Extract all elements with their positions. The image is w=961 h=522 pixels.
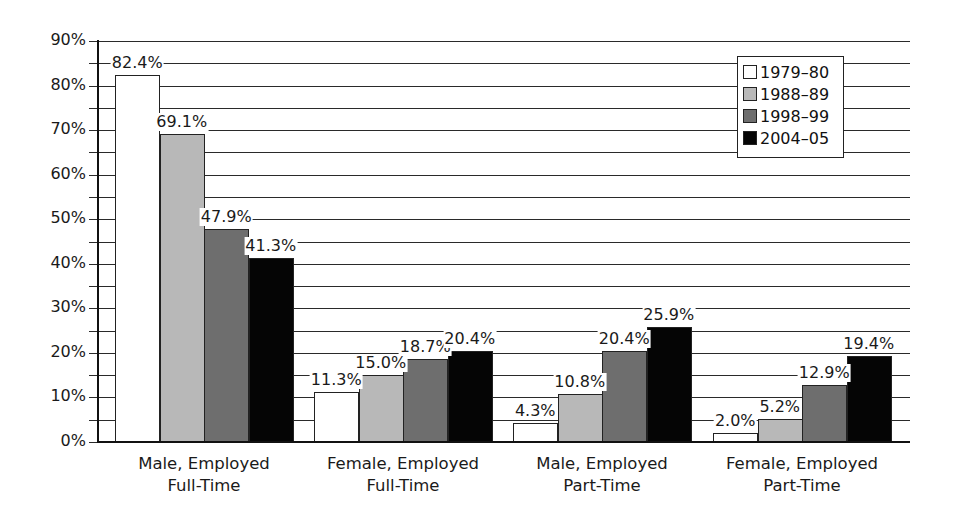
x-category-label: Female, EmployedFull-Time [303,453,503,497]
y-axis [97,40,99,443]
bar [249,258,294,442]
x-category-label: Female, EmployedPart-Time [702,453,902,497]
legend-swatch-1998-99 [743,109,757,123]
grouped-bar-chart: 0%10%20%30%40%50%60%70%80%90% 82.4%69.1%… [0,0,961,522]
y-tick-label: 80% [6,76,86,94]
legend-swatch-2004-05 [743,131,757,145]
bar-value-label: 2.0% [714,412,757,430]
legend-item: 1988–89 [743,83,843,105]
gridline [90,175,910,176]
bar [847,356,892,442]
y-tick-label: 40% [6,254,86,272]
legend: 1979–80 1988–89 1998–99 2004–05 [737,56,844,158]
bar [558,394,603,442]
legend-item: 2004–05 [743,127,843,149]
legend-label: 1979–80 [760,63,829,82]
bar-value-label: 4.3% [514,402,557,420]
bar [204,229,249,442]
bar [115,75,160,442]
legend-swatch-1979-80 [743,65,757,79]
legend-label: 1998–99 [760,107,829,126]
legend-item: 1998–99 [743,105,843,127]
x-axis [97,441,910,443]
bar-value-label: 20.4% [598,330,651,348]
bar [403,359,448,442]
bar-value-label: 10.8% [553,373,606,391]
y-tick-label: 20% [6,343,86,361]
x-category-label: Male, EmployedPart-Time [502,453,702,497]
gridline [90,197,910,198]
y-tick-label: 50% [6,209,86,227]
y-tick-label: 30% [6,298,86,316]
bar [513,423,558,442]
y-tick-label: 0% [6,432,86,450]
y-tick-label: 70% [6,120,86,138]
bar-value-label: 69.1% [155,113,208,131]
legend-label: 1988–89 [760,85,829,104]
x-category-label: Male, EmployedFull-Time [104,453,304,497]
legend-item: 1979–80 [743,61,843,83]
bar [647,327,692,442]
bar-value-label: 15.0% [354,354,407,372]
bar [602,351,647,442]
bar-value-label: 19.4% [842,335,895,353]
gridline [90,41,910,42]
bar [802,385,847,442]
bar [359,375,404,442]
bar-value-label: 41.3% [244,237,297,255]
bar-value-label: 47.9% [200,208,253,226]
bar [314,392,359,442]
bar-value-label: 82.4% [111,54,164,72]
y-tick-label: 10% [6,387,86,405]
bar-value-label: 25.9% [642,306,695,324]
y-tick-label: 90% [6,31,86,49]
legend-swatch-1988-89 [743,87,757,101]
bar [160,134,205,442]
bar [758,419,803,442]
y-tick-label: 60% [6,165,86,183]
bar [448,351,493,442]
bar-value-label: 5.2% [758,398,801,416]
bar-value-label: 11.3% [310,371,363,389]
bar-value-label: 12.9% [798,364,851,382]
legend-label: 2004–05 [760,129,829,148]
bar-value-label: 20.4% [443,330,496,348]
